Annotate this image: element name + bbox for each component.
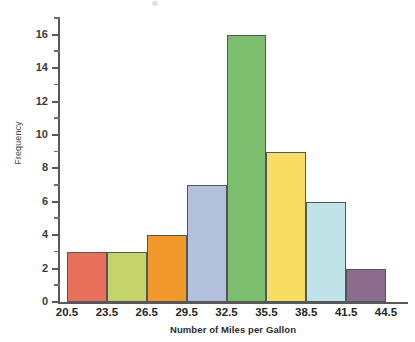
histogram-bar <box>227 35 267 302</box>
histogram-bar <box>346 269 386 302</box>
y-tick-label: 10 <box>14 128 48 140</box>
histogram-bar <box>67 252 107 302</box>
histogram-bar <box>147 235 187 302</box>
y-tick-label: 0 <box>14 295 48 307</box>
histogram-chart: Frequency 0246810121416 20.523.526.529.5… <box>0 0 415 342</box>
histogram-bar <box>187 185 227 302</box>
y-tick-label: 6 <box>14 195 48 207</box>
y-tick-label: 2 <box>14 262 48 274</box>
x-tick-label: 44.5 <box>363 306 409 318</box>
y-tick-label: 4 <box>14 228 48 240</box>
title-remnant-artifact <box>152 1 158 6</box>
x-axis-line <box>58 302 408 304</box>
histogram-bar <box>306 202 346 302</box>
histogram-bar <box>266 152 306 302</box>
y-tick-label: 12 <box>14 95 48 107</box>
y-tick-label: 8 <box>14 161 48 173</box>
x-axis-title: Number of Miles per Gallon <box>58 324 408 335</box>
histogram-bar <box>107 252 147 302</box>
y-tick-label: 14 <box>14 61 48 73</box>
plot-area <box>58 18 408 302</box>
y-tick-label: 16 <box>14 28 48 40</box>
